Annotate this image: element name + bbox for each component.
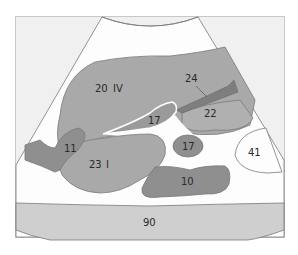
label-20: 20 [95,83,108,94]
label-17-round: 17 [182,141,195,152]
label-11: 11 [64,143,77,154]
label-90: 90 [143,217,156,228]
label-22: 22 [204,108,217,119]
label-i: I [106,159,109,170]
label-17-upper: 17 [148,115,161,126]
label-iv: IV [113,83,123,94]
label-10: 10 [181,176,194,187]
label-23: 23 [89,159,102,170]
diagram-canvas: 20 IV 24 22 17 17 11 23 I 41 10 90 [0,0,298,255]
ultrasound-diagram: 20 IV 24 22 17 17 11 23 I 41 10 90 [0,0,298,255]
label-24: 24 [185,73,198,84]
label-41: 41 [248,147,261,158]
